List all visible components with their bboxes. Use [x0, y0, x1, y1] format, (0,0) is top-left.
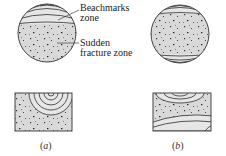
caption-b-close: ) [180, 140, 183, 151]
beachmarks-zone-label: Beachmarks zone [80, 3, 129, 22]
panel-a-rectangle [15, 71, 73, 131]
caption-b: (b) [172, 140, 184, 151]
sudden-fracture-zone-label: Sudden fracture zone [80, 38, 132, 57]
sudden-label-line2: fracture zone [80, 48, 132, 57]
sudden-label-line1: Sudden [80, 38, 132, 47]
panel-a-circle [14, 0, 80, 62]
caption-a: (a) [40, 140, 52, 151]
beachmarks-label-line1: Beachmarks [80, 3, 129, 12]
fracture-surface-diagram [0, 0, 226, 156]
panel-b-rectangle [150, 83, 214, 131]
caption-a-close: ) [48, 140, 51, 151]
beachmarks-label-line2: zone [80, 13, 129, 22]
panel-b-circle [150, 0, 212, 68]
